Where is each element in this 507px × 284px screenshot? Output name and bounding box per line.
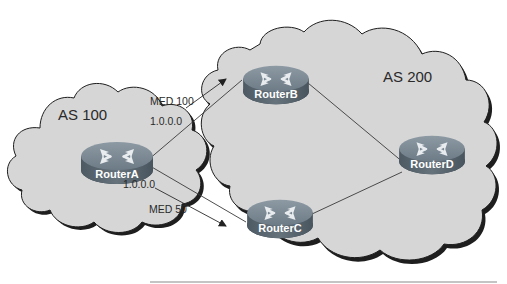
router-c[interactable]: RouterC — [247, 200, 313, 238]
as200-label: AS 200 — [383, 68, 432, 85]
router-d[interactable]: RouterD — [399, 136, 465, 174]
med50-label: MED 50 — [149, 203, 187, 215]
bgp-med-diagram: RouterA RouterB RouterC RouterD AS 100 A… — [0, 0, 507, 284]
router-b[interactable]: RouterB — [243, 66, 309, 104]
prefix-label-b: 1.0.0.0 — [150, 115, 182, 127]
diagram-canvas: RouterA RouterB RouterC RouterD — [0, 0, 507, 284]
router-d-label: RouterD — [410, 158, 453, 170]
router-c-label: RouterC — [258, 222, 301, 234]
as100-label: AS 100 — [58, 106, 107, 123]
prefix-label-c: 1.0.0.0 — [123, 178, 155, 190]
med100-label: MED 100 — [150, 95, 194, 107]
router-b-label: RouterB — [254, 88, 297, 100]
